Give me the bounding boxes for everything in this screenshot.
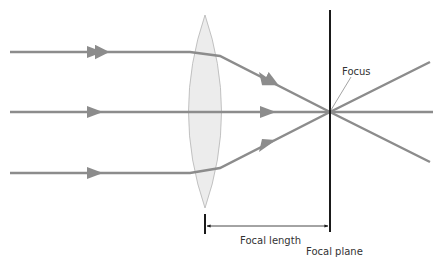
- arrowhead-bottom-out: [259, 139, 276, 152]
- focal-length-label: Focal length: [240, 235, 301, 246]
- arrowhead-middle-in: [87, 106, 103, 118]
- arrowhead-middle-out: [260, 106, 276, 118]
- focal-plane-label: Focal plane: [306, 246, 363, 257]
- arrowhead-top-in: [87, 46, 103, 58]
- lens-diagram: Focus Focal length Focal plane: [0, 0, 439, 260]
- focus-leader-line: [331, 77, 351, 110]
- focus-label: Focus: [342, 66, 371, 77]
- arrowhead-bottom-in: [87, 167, 103, 179]
- arrowhead-top-out: [259, 72, 276, 85]
